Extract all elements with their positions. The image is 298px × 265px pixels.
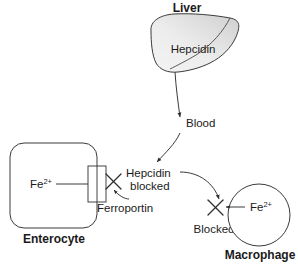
arrow-hepcidin-to-macrophage-block [180,172,219,199]
macrophage-node [228,184,290,246]
macrophage-block-xmark [208,200,223,215]
ferroportin-label: Ferroportin [97,202,153,214]
enterocyte-node [10,143,97,228]
liver-label: Liver [173,1,202,15]
hepcidin-blocked-label-line2: blocked [130,180,170,192]
diagram-canvas: Liver Hepcidin Blood Fe2+ Enterocyte Hep… [0,0,298,265]
enterocyte-block-xmark [106,174,121,189]
hepcidin-label: Hepcidin [171,43,216,55]
ferroportin-channel [88,166,106,202]
hepcidin-blocked-label-line1: Hepcidin [126,167,171,179]
macrophage-shape [228,184,290,246]
arrow-blood-to-block [157,133,180,162]
blood-label: Blood [186,117,215,129]
arrow-ferroportin-callout [114,190,129,199]
enterocyte-shape [10,143,97,228]
arrow-liver-to-blood [175,72,180,117]
macrophage-label: Macrophage [225,248,296,262]
blocked-label: Blocked [194,223,235,235]
hepcidin-iron-regulation-diagram: Liver Hepcidin Blood Fe2+ Enterocyte Hep… [0,0,298,265]
enterocyte-label: Enterocyte [23,232,85,246]
